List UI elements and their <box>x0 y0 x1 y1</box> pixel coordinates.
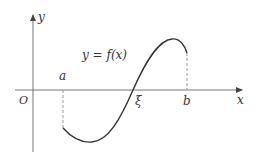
x-axis-label: x <box>237 93 244 107</box>
function-graph-diagram: y x O y = f(x) a b ξ <box>0 0 256 161</box>
b-label: b <box>183 94 191 108</box>
xi-label: ξ <box>135 94 143 108</box>
function-label: y = f(x) <box>81 48 127 62</box>
origin-label: O <box>19 94 28 107</box>
y-axis-label: y <box>37 10 45 24</box>
a-label: a <box>59 69 66 83</box>
